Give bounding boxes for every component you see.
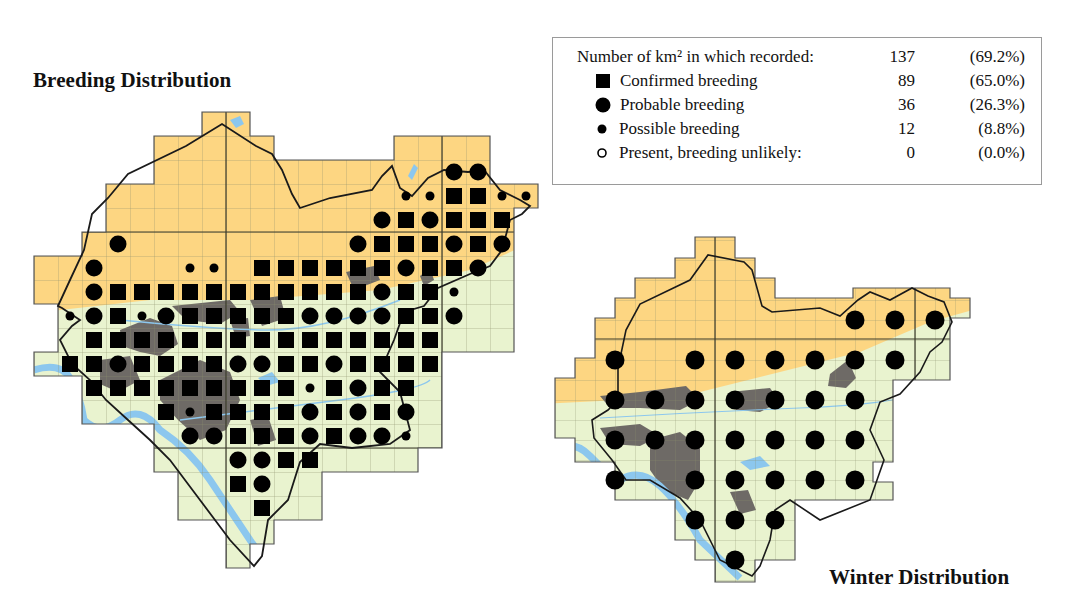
confirmed-breeding-square	[230, 404, 246, 420]
winter-record-dot	[726, 351, 745, 370]
confirmed-breeding-square	[206, 380, 222, 396]
probable-breeding-dot	[446, 164, 463, 181]
legend-header-count: 137	[890, 46, 916, 68]
probable-breeding-dot	[254, 452, 271, 469]
winter-record-dot	[686, 431, 705, 450]
winter-record-dot	[846, 311, 865, 330]
confirmed-breeding-square	[110, 332, 126, 348]
winter-record-dot	[806, 471, 825, 490]
confirmed-breeding-square	[278, 356, 294, 372]
confirmed-breeding-square	[86, 380, 102, 396]
confirmed-breeding-square	[134, 380, 150, 396]
confirmed-breeding-square	[422, 356, 438, 372]
probable-breeding-dot	[422, 212, 439, 229]
confirmed-breeding-square	[350, 332, 366, 348]
winter-record-dot	[726, 471, 745, 490]
confirmed-breeding-square	[254, 404, 270, 420]
legend-header-label: Number of km² in which recorded:	[577, 46, 814, 68]
winter-record-dot	[886, 351, 905, 370]
confirmed-breeding-square	[422, 284, 438, 300]
winter-record-dot	[726, 511, 745, 530]
probable-breeding-dot	[398, 260, 415, 277]
winter-record-dot	[686, 351, 705, 370]
confirmed-breeding-square	[446, 260, 462, 276]
winter-record-dot	[606, 471, 625, 490]
winter-record-dot	[766, 471, 785, 490]
winter-record-dot	[846, 471, 865, 490]
probable-breeding-dot	[446, 308, 463, 325]
legend-row-possible: Possible breeding 12 (8.8%)	[553, 118, 1041, 140]
confirmed-breeding-square	[206, 356, 222, 372]
confirmed-breeding-square	[470, 236, 486, 252]
confirmed-breeding-square	[158, 356, 174, 372]
probable-breeding-dot	[230, 356, 247, 373]
possible-breeding-dot	[450, 288, 459, 297]
confirmed-breeding-square	[278, 404, 294, 420]
confirmed-breeding-square	[206, 404, 222, 420]
confirmed-breeding-square	[326, 260, 342, 276]
winter-record-dot	[766, 511, 785, 530]
confirmed-breeding-square	[374, 260, 390, 276]
confirmed-breeding-square	[302, 452, 318, 468]
confirmed-breeding-square	[206, 308, 222, 324]
confirmed-breeding-square	[158, 332, 174, 348]
probable-breeding-dot	[494, 236, 511, 253]
confirmed-breeding-square	[254, 380, 270, 396]
probable-breeding-dot	[86, 260, 103, 277]
confirmed-breeding-square	[398, 356, 414, 372]
probable-breeding-dot	[110, 356, 127, 373]
winter-record-dot	[726, 431, 745, 450]
confirmed-breeding-square	[494, 212, 510, 228]
probable-breeding-dot	[302, 404, 319, 421]
confirmed-breeding-square	[182, 380, 198, 396]
probable-breeding-dot	[350, 380, 367, 397]
legend-header-percent: (69.2%)	[970, 46, 1025, 68]
confirmed-breeding-square	[350, 260, 366, 276]
winter-record-dot	[846, 391, 865, 410]
winter-record-dot	[686, 391, 705, 410]
probable-breeding-dot	[398, 404, 415, 421]
possible-breeding-dot	[138, 312, 147, 321]
confirmed-breeding-square	[470, 212, 486, 228]
winter-record-dot	[766, 351, 785, 370]
probable-breeding-dot	[350, 308, 367, 325]
confirmed-breeding-square	[374, 332, 390, 348]
confirmed-breeding-square	[374, 356, 390, 372]
winter-map	[540, 230, 980, 590]
breeding-map	[0, 100, 560, 580]
legend-row-present: Present, breeding unlikely: 0 (0.0%)	[553, 142, 1041, 164]
confirmed-breeding-square	[278, 428, 294, 444]
probable-breeding-dot	[254, 476, 271, 493]
winter-record-dot	[886, 311, 905, 330]
confirmed-breeding-square	[422, 308, 438, 324]
confirmed-breeding-square	[206, 332, 222, 348]
confirmed-breeding-square	[278, 260, 294, 276]
winter-record-dot	[686, 471, 705, 490]
confirmed-breeding-square	[86, 356, 102, 372]
confirmed-breeding-square	[158, 404, 174, 420]
winter-record-dot	[806, 391, 825, 410]
possible-breeding-dot	[66, 312, 75, 321]
probable-breeding-dot	[182, 428, 199, 445]
winter-record-dot	[766, 391, 785, 410]
possible-breeding-dot	[186, 264, 195, 273]
confirmed-breeding-square	[230, 428, 246, 444]
square-filled-icon	[593, 70, 613, 92]
winter-record-dot	[646, 391, 665, 410]
confirmed-breeding-square	[254, 332, 270, 348]
confirmed-breeding-square	[398, 380, 414, 396]
possible-breeding-dot	[186, 408, 195, 417]
legend-box: Number of km² in which recorded: 137 (69…	[552, 37, 1042, 185]
legend-row-confirmed: Confirmed breeding 89 (65.0%)	[553, 70, 1041, 92]
probable-breeding-dot	[374, 308, 391, 325]
probable-breeding-dot	[350, 428, 367, 445]
confirmed-breeding-square	[254, 308, 270, 324]
confirmed-breeding-square	[254, 428, 270, 444]
confirmed-breeding-square	[86, 332, 102, 348]
probable-breeding-dot	[326, 356, 343, 373]
confirmed-breeding-square	[230, 332, 246, 348]
legend-count: 89	[898, 70, 915, 92]
confirmed-breeding-square	[182, 356, 198, 372]
confirmed-breeding-square	[182, 308, 198, 324]
winter-record-dot	[606, 391, 625, 410]
